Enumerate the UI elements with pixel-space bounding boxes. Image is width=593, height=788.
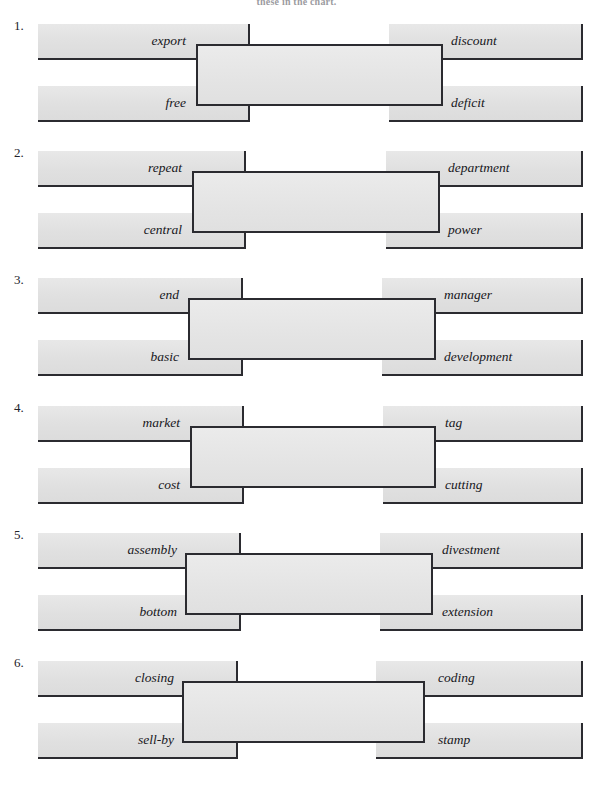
exercise-number: 4. xyxy=(14,400,24,416)
left-word-bottom: bottom xyxy=(139,604,177,620)
bar-underline xyxy=(386,247,583,249)
left-word-top: export xyxy=(152,33,187,49)
bar-end-tick xyxy=(581,340,583,374)
bar-end-tick xyxy=(581,151,583,185)
bar-end-tick xyxy=(581,723,583,757)
bar-underline xyxy=(376,757,583,759)
bar-end-tick xyxy=(581,213,583,247)
exercise-item: 5. assembly bottom divestment extension xyxy=(0,527,593,645)
right-word-bottom: deficit xyxy=(451,95,485,111)
bar-underline xyxy=(38,757,238,759)
exercise-item: 3. end basic manager development xyxy=(0,272,593,390)
left-word-top: market xyxy=(143,415,181,431)
left-word-bottom: cost xyxy=(158,477,180,493)
left-word-top: end xyxy=(160,287,180,303)
answer-box[interactable] xyxy=(188,298,436,360)
right-word-top: tag xyxy=(445,415,462,431)
exercise-item: 6. closing sell-by coding stamp xyxy=(0,655,593,773)
exercise-item: 4. market cost tag cutting xyxy=(0,400,593,518)
right-word-bottom: stamp xyxy=(438,732,470,748)
left-word-top: closing xyxy=(135,670,174,686)
bar-underline xyxy=(38,629,241,631)
page-header-text: these in the chart. xyxy=(0,0,593,6)
bar-underline xyxy=(380,629,583,631)
bar-underline xyxy=(38,502,244,504)
exercise-number: 2. xyxy=(14,145,24,161)
answer-box[interactable] xyxy=(190,426,436,488)
bar-end-tick xyxy=(581,86,583,120)
answer-box[interactable] xyxy=(185,553,433,615)
exercise-item: 1. export free discount deficit xyxy=(0,18,593,136)
bar-end-tick xyxy=(581,533,583,567)
right-word-top: discount xyxy=(451,33,497,49)
right-word-bottom: cutting xyxy=(445,477,483,493)
right-word-top: manager xyxy=(444,287,492,303)
answer-box[interactable] xyxy=(192,171,440,233)
bar-end-tick xyxy=(581,468,583,502)
exercise-item: 2. repeat central department power xyxy=(0,145,593,263)
exercise-number: 5. xyxy=(14,527,24,543)
exercise-number: 6. xyxy=(14,655,24,671)
bar-underline xyxy=(38,120,250,122)
bar-underline xyxy=(38,247,246,249)
exercise-number: 1. xyxy=(14,18,24,34)
left-word-top: assembly xyxy=(128,542,178,558)
bar-end-tick xyxy=(581,661,583,695)
left-word-bottom: free xyxy=(166,95,187,111)
right-word-top: coding xyxy=(438,670,475,686)
worksheet-page: { "page": { "header_text": "these in the… xyxy=(0,0,593,788)
right-word-bottom: power xyxy=(448,222,482,238)
bar-underline xyxy=(389,120,583,122)
bar-underline xyxy=(38,374,243,376)
left-word-top: repeat xyxy=(148,160,182,176)
right-word-bottom: development xyxy=(444,349,512,365)
left-word-bottom: basic xyxy=(151,349,180,365)
answer-box[interactable] xyxy=(196,44,443,106)
right-word-top: department xyxy=(448,160,510,176)
exercise-number: 3. xyxy=(14,272,24,288)
bar-underline xyxy=(382,374,583,376)
right-word-top: divestment xyxy=(442,542,500,558)
left-word-bottom: central xyxy=(144,222,182,238)
right-word-bottom: extension xyxy=(442,604,493,620)
left-word-bottom: sell-by xyxy=(138,732,174,748)
bar-end-tick xyxy=(581,278,583,312)
bar-end-tick xyxy=(581,406,583,440)
answer-box[interactable] xyxy=(182,681,425,743)
bar-end-tick xyxy=(581,24,583,58)
bar-underline xyxy=(383,502,583,504)
bar-end-tick xyxy=(581,595,583,629)
